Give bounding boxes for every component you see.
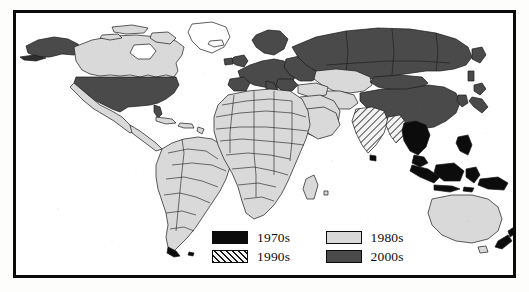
legend-swatch-2000s	[326, 250, 362, 263]
map-frame-border: 1970s 1980s 1990s 2000s	[13, 10, 516, 278]
legend-swatch-1990s	[212, 250, 248, 263]
legend-swatch-1980s	[326, 231, 362, 244]
legend-label-1980s: 1980s	[371, 231, 404, 245]
map-legend: 1970s 1980s 1990s 2000s	[212, 231, 422, 263]
legend-label-2000s: 2000s	[371, 250, 404, 264]
legend-label-1970s: 1970s	[257, 231, 290, 245]
region-falklands	[188, 252, 194, 256]
region-sri-lanka	[370, 155, 376, 161]
legend-item-2000s: 2000s	[326, 250, 423, 264]
region-sakhalin	[468, 71, 474, 81]
legend-label-1990s: 1990s	[257, 250, 290, 264]
world-map-figure: 1970s 1980s 1990s 2000s	[0, 0, 529, 292]
region-timor	[463, 187, 474, 192]
legend-item-1990s: 1990s	[212, 250, 309, 264]
region-mauritius	[324, 191, 328, 195]
region-ireland	[224, 58, 233, 65]
legend-item-1970s: 1970s	[212, 231, 309, 245]
legend-item-1980s: 1980s	[326, 231, 423, 245]
region-tasmania	[478, 246, 488, 253]
legend-swatch-1970s	[212, 231, 248, 244]
